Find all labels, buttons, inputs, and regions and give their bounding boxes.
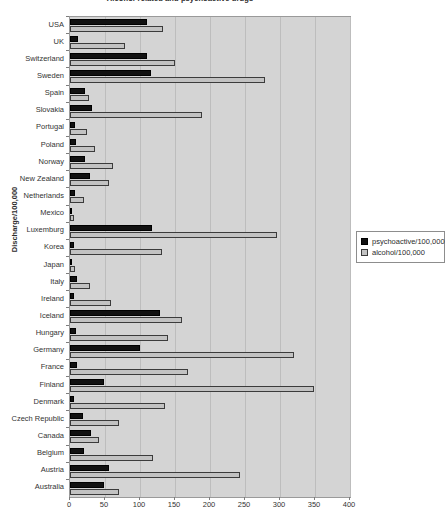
y-tick-label: Australia bbox=[0, 482, 64, 491]
bar-alcohol bbox=[70, 180, 109, 186]
bar-alcohol bbox=[70, 420, 119, 426]
bar-alcohol bbox=[70, 232, 277, 238]
bar-group bbox=[70, 137, 350, 154]
y-tick-label: Japan bbox=[0, 260, 64, 269]
bar-group bbox=[70, 480, 350, 497]
bar-psychoactive bbox=[70, 448, 84, 454]
bar-alcohol bbox=[70, 163, 113, 169]
bar-alcohol bbox=[70, 77, 265, 83]
bar-group bbox=[70, 206, 350, 223]
bar-psychoactive bbox=[70, 310, 160, 316]
x-tick-mark bbox=[349, 497, 350, 500]
bar-psychoactive bbox=[70, 88, 85, 94]
bar-psychoactive bbox=[70, 19, 147, 25]
y-tick-label: UK bbox=[0, 37, 64, 46]
x-tick-mark bbox=[139, 497, 140, 500]
bar-group bbox=[70, 308, 350, 325]
bar-group bbox=[70, 428, 350, 445]
bar-alcohol bbox=[70, 352, 294, 358]
bar-psychoactive bbox=[70, 482, 104, 488]
bar-group bbox=[70, 171, 350, 188]
bar-alcohol bbox=[70, 283, 90, 289]
x-tick-label: 350 bbox=[297, 500, 331, 509]
bar-alcohol bbox=[70, 112, 202, 118]
bar-alcohol bbox=[70, 317, 182, 323]
bar-psychoactive bbox=[70, 156, 85, 162]
bar-group bbox=[70, 103, 350, 120]
x-tick-label: 200 bbox=[192, 500, 226, 509]
x-tick-label: 300 bbox=[262, 500, 296, 509]
bar-alcohol bbox=[70, 146, 95, 152]
y-tick-label: Germany bbox=[0, 345, 64, 354]
y-tick-label: USA bbox=[0, 20, 64, 29]
bar-psychoactive bbox=[70, 190, 75, 196]
bar-alcohol bbox=[70, 386, 314, 392]
x-tick-mark bbox=[279, 497, 280, 500]
x-tick-mark bbox=[69, 497, 70, 500]
bar-group bbox=[70, 463, 350, 480]
y-tick-label: Denmark bbox=[0, 397, 64, 406]
bar-alcohol bbox=[70, 60, 175, 66]
bar-group bbox=[70, 240, 350, 257]
bar-group bbox=[70, 257, 350, 274]
bar-group bbox=[70, 291, 350, 308]
bar-alcohol bbox=[70, 489, 119, 495]
bar-alcohol bbox=[70, 43, 125, 49]
y-tick-label: Belgium bbox=[0, 448, 64, 457]
y-tick-label: Norway bbox=[0, 157, 64, 166]
bar-psychoactive bbox=[70, 259, 72, 265]
plot-area bbox=[69, 16, 351, 498]
y-tick-label: Netherlands bbox=[0, 191, 64, 200]
bar-group bbox=[70, 360, 350, 377]
legend-item: alcohol/100,000 bbox=[361, 247, 439, 258]
y-tick-label: New Zealand bbox=[0, 174, 64, 183]
legend-item: psychoactive/100,000 bbox=[361, 236, 439, 247]
bar-alcohol bbox=[70, 300, 111, 306]
y-tick-label: Italy bbox=[0, 277, 64, 286]
bar-psychoactive bbox=[70, 70, 151, 76]
y-tick-label: Austria bbox=[0, 465, 64, 474]
bar-group bbox=[70, 223, 350, 240]
y-tick-label: Mexico bbox=[0, 208, 64, 217]
bar-group bbox=[70, 377, 350, 394]
legend-swatch-alc bbox=[361, 249, 368, 256]
bar-psychoactive bbox=[70, 139, 76, 145]
bar-psychoactive bbox=[70, 36, 78, 42]
y-tick-label: Poland bbox=[0, 140, 64, 149]
bar-alcohol bbox=[70, 197, 84, 203]
x-tick-mark bbox=[209, 497, 210, 500]
y-tick-label: Iceland bbox=[0, 311, 64, 320]
bar-alcohol bbox=[70, 129, 87, 135]
y-tick-label: Spain bbox=[0, 88, 64, 97]
x-tick-label: 150 bbox=[157, 500, 191, 509]
bar-group bbox=[70, 154, 350, 171]
y-tick-label: Slovakia bbox=[0, 105, 64, 114]
legend-swatch-psy bbox=[361, 238, 368, 245]
bar-psychoactive bbox=[70, 362, 77, 368]
x-tick-mark bbox=[244, 497, 245, 500]
bar-group bbox=[70, 17, 350, 34]
y-tick-label: Hungary bbox=[0, 328, 64, 337]
bar-group bbox=[70, 51, 350, 68]
bar-group bbox=[70, 411, 350, 428]
bar-psychoactive bbox=[70, 396, 74, 402]
legend-label: alcohol/100,000 bbox=[372, 248, 425, 257]
y-tick-label: Sweden bbox=[0, 71, 64, 80]
bar-psychoactive bbox=[70, 430, 91, 436]
bar-psychoactive bbox=[70, 225, 152, 231]
x-tick-label: 100 bbox=[122, 500, 156, 509]
bar-psychoactive bbox=[70, 379, 104, 385]
bar-psychoactive bbox=[70, 208, 72, 214]
bar-psychoactive bbox=[70, 293, 74, 299]
y-tick-label: Luxemburg bbox=[0, 225, 64, 234]
bar-psychoactive bbox=[70, 242, 74, 248]
bar-alcohol bbox=[70, 335, 168, 341]
bar-alcohol bbox=[70, 95, 89, 101]
y-tick-label: Finland bbox=[0, 380, 64, 389]
bar-group bbox=[70, 274, 350, 291]
bar-psychoactive bbox=[70, 465, 109, 471]
legend-label: psychoactive/100,000 bbox=[372, 237, 445, 246]
x-tick-mark bbox=[174, 497, 175, 500]
x-tick-label: 400 bbox=[332, 500, 366, 509]
bar-psychoactive bbox=[70, 413, 83, 419]
